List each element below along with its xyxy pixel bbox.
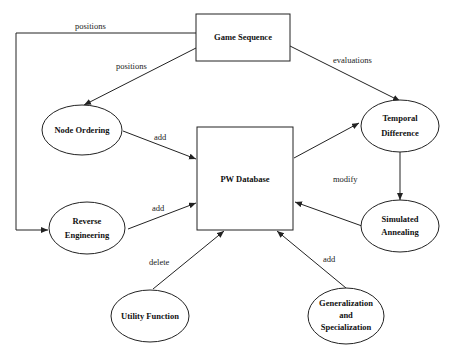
node-simulated-annealing: Simulated Annealing xyxy=(361,200,439,252)
edge-node-ordering-to-db: add xyxy=(123,131,196,159)
node-label-line3: Specialization xyxy=(321,322,372,332)
edge-label: add xyxy=(152,203,165,213)
edge-temporal-difference-to-simulated-annealing: modify xyxy=(333,152,400,200)
edge-reverse-engineering-to-db: add xyxy=(128,203,196,229)
node-label-line1: Generalization xyxy=(319,298,373,308)
node-label-line2: and xyxy=(339,310,353,320)
edge-label: add xyxy=(154,132,167,142)
node-label-line1: Simulated xyxy=(382,214,419,224)
edge-gs-to-node-ordering: positions xyxy=(84,48,196,105)
node-reverse-engineering: Reverse Engineering xyxy=(49,202,125,254)
edge-label: modify xyxy=(333,174,358,184)
node-label: Utility Function xyxy=(121,311,179,321)
node-label-line2: Engineering xyxy=(65,230,110,240)
edge-utility-function-to-db: delete xyxy=(149,231,224,289)
edge-label: evaluations xyxy=(333,55,372,65)
node-label-line2: Difference xyxy=(381,128,419,138)
node-temporal-difference: Temporal Difference xyxy=(361,100,439,152)
edge-label: delete xyxy=(149,257,170,267)
node-label: PW Database xyxy=(220,174,269,184)
node-label-line2: Annealing xyxy=(381,227,419,237)
edge-generalization-to-db: add xyxy=(277,231,346,288)
node-game-sequence: Game Sequence xyxy=(196,14,290,61)
node-node-ordering: Node Ordering xyxy=(42,105,122,155)
flow-diagram: positions positions evaluations add add … xyxy=(0,0,453,355)
node-label-line1: Reverse xyxy=(73,216,102,226)
edge-simulated-annealing-to-db xyxy=(295,202,362,226)
node-utility-function: Utility Function xyxy=(111,290,189,342)
edge-db-to-temporal-difference xyxy=(294,123,359,158)
edge-label: positions xyxy=(75,21,106,31)
node-label-line1: Temporal xyxy=(382,113,418,123)
node-generalization-and-specialization: Generalization and Specialization xyxy=(308,288,384,344)
node-label: Game Sequence xyxy=(214,32,272,42)
node-label: Node Ordering xyxy=(54,125,110,135)
node-pw-database: PW Database xyxy=(197,127,293,230)
edge-label: add xyxy=(323,254,336,264)
edge-gs-to-temporal-difference: evaluations xyxy=(290,46,400,101)
edge-label: positions xyxy=(116,61,147,71)
